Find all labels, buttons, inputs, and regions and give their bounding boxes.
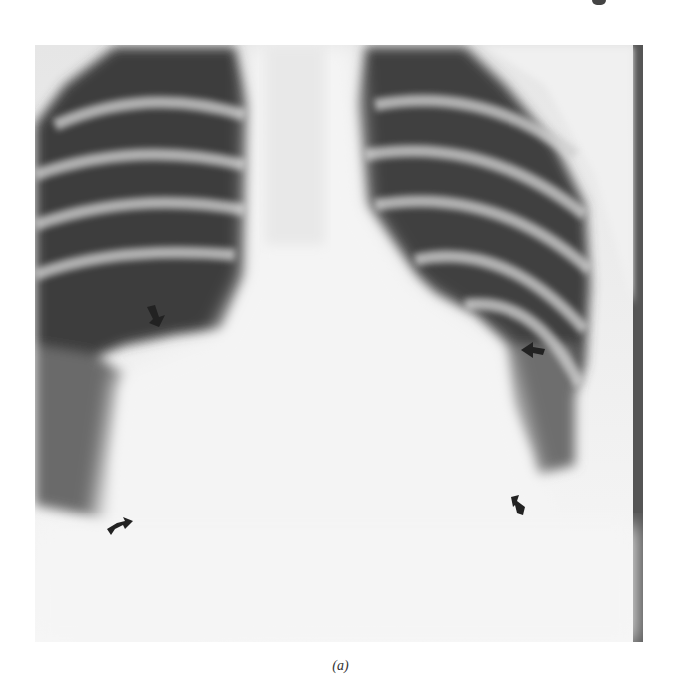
figure-caption: (a): [0, 658, 681, 674]
chest-xray-image: [35, 45, 643, 642]
corner-mark: [592, 0, 606, 5]
xray-figure: [35, 45, 643, 642]
